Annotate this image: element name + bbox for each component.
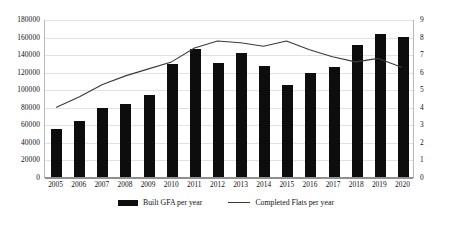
x-axis-tick: 2014 (256, 180, 271, 190)
plot-area (44, 20, 414, 178)
y-axis-left-tick: 40000 (21, 139, 40, 147)
x-axis-tick: 2009 (141, 180, 156, 190)
chart-container: 0200004000060000800001000001200001400001… (0, 0, 452, 225)
y-axis-left-labels: 0200004000060000800001000001200001400001… (0, 20, 40, 178)
x-axis-tick: 2019 (372, 180, 387, 190)
y-axis-left-tick: 0 (36, 174, 40, 182)
gridline (45, 178, 413, 179)
y-axis-right-tick: 6 (420, 69, 424, 77)
x-axis-tick: 2011 (187, 180, 202, 190)
y-axis-left-tick: 180000 (17, 16, 40, 24)
x-axis-tick: 2018 (349, 180, 364, 190)
legend-label-completed-flats: Completed Flats per year (255, 198, 334, 207)
x-axis-tick: 2015 (279, 180, 294, 190)
y-axis-right-tick: 3 (420, 121, 424, 129)
x-axis-tick: 2012 (210, 180, 225, 190)
y-axis-right-tick: 2 (420, 139, 424, 147)
y-axis-right-labels: 0123456789 (420, 20, 448, 178)
y-axis-right-tick: 9 (420, 16, 424, 24)
x-axis-tick: 2020 (395, 180, 410, 190)
y-axis-left-tick: 160000 (17, 34, 40, 42)
x-axis-tick: 2007 (94, 180, 109, 190)
y-axis-left-tick: 140000 (17, 51, 40, 59)
x-axis-tick: 2010 (164, 180, 179, 190)
legend-item-completed-flats: Completed Flats per year (228, 198, 334, 207)
y-axis-left-tick: 60000 (21, 121, 40, 129)
y-axis-right-tick: 1 (420, 156, 424, 164)
y-axis-left-tick: 120000 (17, 69, 40, 77)
x-axis-tick: 2008 (118, 180, 133, 190)
x-axis-tick: 2006 (71, 180, 86, 190)
x-axis-tick: 2005 (48, 180, 63, 190)
bar-swatch-icon (118, 200, 138, 206)
y-axis-right-tick: 0 (420, 174, 424, 182)
legend-item-built-gfa: Built GFA per year (118, 198, 202, 207)
flats-polyline (56, 41, 401, 107)
x-axis-tick: 2016 (303, 180, 318, 190)
x-axis-tick: 2017 (326, 180, 341, 190)
y-axis-right-tick: 7 (420, 51, 424, 59)
y-axis-right-tick: 4 (420, 104, 424, 112)
chart-legend: Built GFA per year Completed Flats per y… (0, 198, 452, 207)
x-axis-tick: 2013 (233, 180, 248, 190)
line-series-completed-flats-per-year (45, 20, 413, 177)
x-axis-labels: 2005200620072008200920102011201220132014… (44, 180, 414, 194)
y-axis-right-tick: 8 (420, 34, 424, 42)
line-swatch-icon (228, 202, 250, 203)
y-axis-left-tick: 100000 (17, 86, 40, 94)
y-axis-left-tick: 80000 (21, 104, 40, 112)
legend-label-built-gfa: Built GFA per year (143, 198, 202, 207)
y-axis-left-tick: 20000 (21, 156, 40, 164)
y-axis-right-tick: 5 (420, 86, 424, 94)
